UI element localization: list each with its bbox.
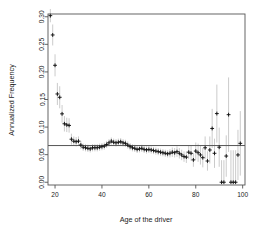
y-tick-label: 0.25 [39,38,46,51]
data-markers-layer [48,14,242,184]
y-tick-label: 0.00 [39,175,46,188]
y-tick-label: 0.30 [39,10,46,23]
y-axis-label: Annualized Frequency [7,64,16,136]
y-tick-label: 0.15 [39,93,46,106]
x-tick-label: 100 [237,191,248,198]
x-axis-ticks: 20406080100 [51,185,248,198]
y-tick-label: 0.10 [39,120,46,133]
plot-frame [48,14,245,185]
error-bars-layer [50,9,240,182]
x-tick-label: 40 [98,191,106,198]
x-tick-label: 80 [192,191,200,198]
y-tick-label: 0.05 [39,148,46,161]
y-tick-label: 0.20 [39,65,46,78]
x-tick-label: 60 [145,191,153,198]
x-tick-label: 20 [51,191,59,198]
chart-figure: 20406080100 0.000.050.100.150.200.250.30… [0,0,262,235]
x-axis-label: Age of the driver [120,215,173,224]
scatter-plot: 20406080100 0.000.050.100.150.200.250.30… [0,0,262,235]
y-axis-ticks: 0.000.050.100.150.200.250.30 [39,10,49,189]
